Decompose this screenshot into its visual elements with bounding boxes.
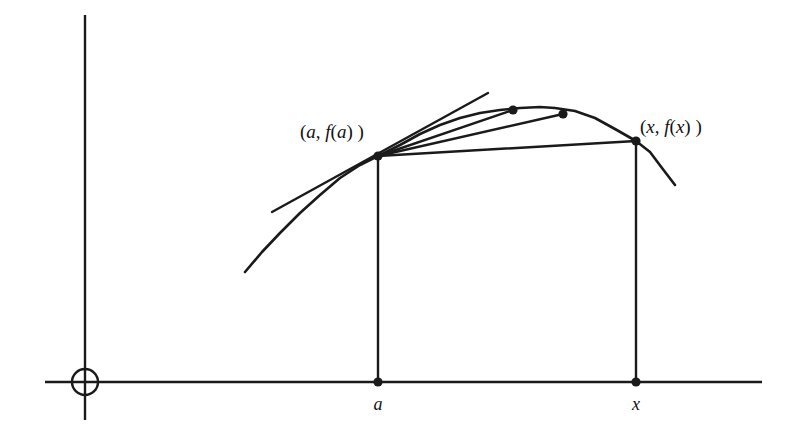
axes-group	[45, 15, 762, 420]
secant-point-2	[558, 109, 567, 118]
point-a-label: (a, f(a) )	[300, 121, 364, 143]
secant-point-1	[508, 105, 517, 114]
point-a	[373, 151, 382, 160]
vertical-drop-lines	[378, 141, 636, 382]
tangent-and-secant-lines	[272, 93, 636, 212]
axis-tick-labels-group: ax	[374, 394, 641, 414]
axis-point-a	[373, 377, 382, 386]
axis-tick-label-x: x	[631, 394, 640, 414]
point-x-label: (x, f(x) )	[640, 116, 702, 138]
point-x	[631, 136, 640, 145]
axis-point-x	[631, 377, 640, 386]
calculus-secant-tangent-diagram: (a, f(a) )(x, f(x) ) ax	[0, 0, 795, 438]
math-labels-group: (a, f(a) )(x, f(x) )	[300, 116, 702, 143]
axis-tick-label-a: a	[374, 394, 383, 414]
figure-container: (a, f(a) )(x, f(x) ) ax	[0, 0, 795, 438]
